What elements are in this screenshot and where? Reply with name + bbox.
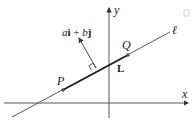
right-angle-marker [89,63,96,70]
normal-vector-label: ai + bj [62,27,91,38]
line-l-label: ℓ [172,24,177,36]
y-axis-label: y [114,4,119,16]
point-q [126,53,130,57]
point-p-label: P [57,75,64,87]
corner-box-icon [184,10,189,16]
point-q-label: Q [122,39,131,51]
point-p [61,88,65,92]
x-axis-label: x [182,88,187,100]
diagram-canvas [0,0,192,125]
plus-sign: + [71,26,83,38]
segment-l-label: L [117,63,124,74]
unit-j: j [88,26,92,38]
